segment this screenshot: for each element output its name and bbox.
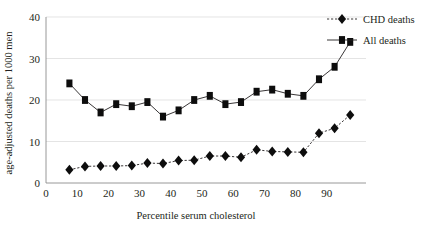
square-marker [222, 100, 228, 108]
square-marker [339, 36, 345, 44]
square-marker [269, 86, 275, 94]
x-tick-label-80: 80 [290, 187, 302, 199]
square-marker [66, 80, 72, 88]
square-marker [300, 92, 306, 100]
legend-label-0: CHD deaths [363, 14, 415, 25]
chart-container: 010203040 0102030405060708090 age-adjust… [0, 0, 445, 229]
x-axis-title: Percentile serum cholesterol [137, 210, 256, 221]
square-marker [82, 96, 88, 104]
x-tick-label-60: 60 [228, 187, 240, 199]
y-tick-label-0: 0 [35, 177, 41, 189]
x-tick-label-40: 40 [165, 187, 177, 199]
x-tick-label-10: 10 [72, 187, 84, 199]
x-tick-label-0: 0 [43, 187, 49, 199]
y-tick-label-30: 30 [29, 53, 41, 65]
square-marker [144, 98, 150, 106]
square-marker [98, 109, 104, 117]
square-marker [238, 98, 244, 106]
square-marker [191, 96, 197, 104]
legend-label-1: All deaths [363, 35, 406, 46]
x-tick-label-70: 70 [259, 187, 271, 199]
x-tick-label-30: 30 [134, 187, 146, 199]
y-tick-label-10: 10 [29, 136, 41, 148]
square-marker [207, 92, 213, 100]
y-axis-title: age-adjusted deaths per 1000 men [3, 31, 14, 175]
x-tick-label-90: 90 [321, 187, 333, 199]
x-tick-label-50: 50 [197, 187, 209, 199]
square-marker [160, 113, 166, 121]
square-marker [129, 102, 135, 110]
y-tick-label-20: 20 [29, 94, 41, 106]
square-marker [254, 88, 260, 96]
square-marker [113, 100, 119, 108]
y-tick-label-40: 40 [29, 11, 41, 23]
square-marker [316, 75, 322, 83]
square-marker [176, 106, 182, 114]
square-marker [285, 90, 291, 98]
square-marker [332, 63, 338, 71]
cholesterol-mortality-chart: 010203040 0102030405060708090 age-adjust… [0, 0, 445, 229]
x-tick-label-20: 20 [103, 187, 115, 199]
square-marker [347, 38, 353, 46]
